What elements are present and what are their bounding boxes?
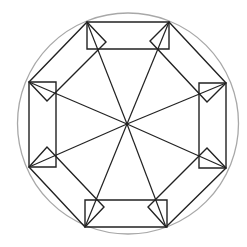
background [0, 0, 247, 247]
octagon-diagram [0, 0, 247, 247]
